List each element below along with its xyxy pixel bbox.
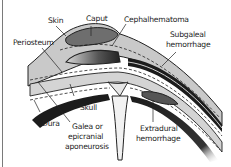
- label-skull: Skull: [80, 103, 97, 112]
- scalp-cross-section-diagram: Skin Caput Cephalhematoma Periosteum Sub…: [0, 0, 231, 167]
- label-dura: Dura: [42, 119, 60, 128]
- label-galea-1: Galea or: [72, 122, 104, 131]
- diagram-frame: Skin Caput Cephalhematoma Periosteum Sub…: [0, 0, 231, 167]
- label-extradural-2: hemorrhage: [136, 134, 181, 143]
- label-caput: Caput: [86, 14, 108, 23]
- falx: [112, 96, 128, 160]
- label-cephalhematoma: Cephalhematoma: [124, 15, 189, 24]
- label-galea-2: epicranial: [68, 132, 103, 141]
- label-skin: Skin: [48, 16, 64, 25]
- label-periosteum: Periosteum: [13, 38, 54, 47]
- label-subgaleal-1: Subgaleal: [170, 30, 206, 39]
- suture-fontanelle: [108, 82, 128, 96]
- label-galea-3: aponeurosis: [65, 142, 109, 151]
- label-extradural-1: Extradural: [140, 124, 178, 133]
- label-subgaleal-2: hemorrhage: [166, 40, 211, 49]
